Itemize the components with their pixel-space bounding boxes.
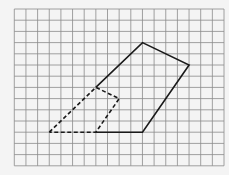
grid-diagram — [0, 0, 229, 175]
